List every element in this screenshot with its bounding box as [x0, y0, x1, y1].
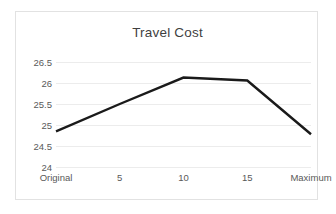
x-axis-tick-label: 15	[242, 172, 253, 183]
x-axis-tick-label: Original	[40, 172, 73, 183]
x-axis-tick-label: Maximum	[290, 172, 331, 183]
chart-title: Travel Cost	[16, 25, 319, 40]
x-axis-tick-label: 5	[117, 172, 122, 183]
y-axis-tick-label: 25.5	[16, 99, 52, 110]
y-axis-tick-label: 26.5	[16, 57, 52, 68]
plot-area	[56, 62, 311, 167]
y-axis-tick-labels: 26.52625.52524.524	[16, 62, 52, 167]
y-axis-tick-label: 26	[16, 78, 52, 89]
x-axis-tick-labels: Original51015Maximum	[56, 172, 311, 186]
gridline	[56, 167, 311, 168]
y-axis-tick-label: 24.5	[16, 141, 52, 152]
y-axis-tick-label: 25	[16, 120, 52, 131]
x-axis-tick-label: 10	[178, 172, 189, 183]
chart-container: Travel Cost 26.52625.52524.524 Original5…	[15, 11, 318, 200]
line-series-travel-cost	[56, 62, 311, 167]
y-axis-tick-label: 24	[16, 162, 52, 173]
series-polyline	[56, 78, 311, 135]
